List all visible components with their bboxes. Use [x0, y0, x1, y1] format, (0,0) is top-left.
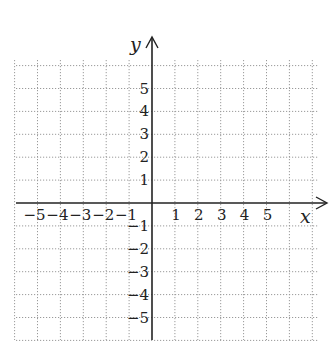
y-tick-label: −4 — [127, 286, 149, 304]
y-tick-label: 5 — [139, 80, 149, 98]
x-tick-label: 3 — [217, 206, 227, 224]
y-tick-label: 1 — [139, 171, 149, 189]
y-tick-label: −1 — [127, 217, 149, 235]
x-tick-label: −5 — [23, 206, 45, 224]
y-tick-label: 4 — [139, 102, 149, 120]
grid-lines — [15, 60, 318, 340]
y-tick-label: 3 — [139, 125, 149, 143]
y-tick-label: −2 — [127, 240, 149, 258]
x-tick-label: −2 — [92, 206, 114, 224]
coordinate-plane: −5−4−3−2−11234554321−1−2−3−4−5 x y — [0, 0, 336, 348]
x-tick-label: −4 — [46, 206, 68, 224]
y-tick-label: 2 — [139, 148, 149, 166]
x-tick-label: 5 — [263, 206, 273, 224]
x-axis-label: x — [300, 205, 311, 227]
y-axis-label: y — [129, 33, 141, 55]
x-tick-label: −3 — [69, 206, 91, 224]
x-tick-label: 2 — [194, 206, 204, 224]
x-tick-label: 4 — [240, 206, 250, 224]
y-tick-label: −5 — [127, 309, 149, 327]
x-tick-label: 1 — [171, 206, 181, 224]
y-tick-label: −3 — [127, 263, 149, 281]
